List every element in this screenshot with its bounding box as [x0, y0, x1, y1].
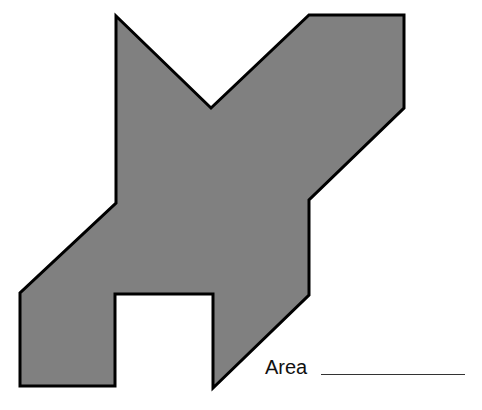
irregular-polygon — [20, 15, 404, 388]
area-label: Area — [265, 357, 307, 377]
area-answer-blank[interactable] — [321, 374, 465, 375]
shape-figure — [0, 0, 482, 410]
